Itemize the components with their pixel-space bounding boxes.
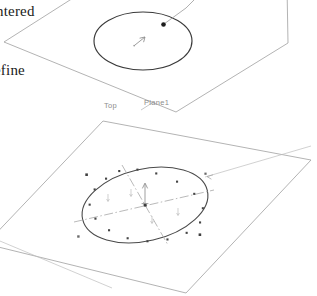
axis-endpoint-handle[interactable]	[85, 173, 88, 176]
control-point-handle[interactable]	[155, 172, 157, 174]
cad-drawing-canvas	[0, 0, 317, 296]
control-point-handle[interactable]	[108, 229, 110, 231]
plane-edge-midpoint-handle[interactable]	[77, 235, 79, 237]
control-point-handle[interactable]	[89, 204, 91, 206]
control-point-handle[interactable]	[199, 221, 201, 223]
control-point-handle[interactable]	[176, 181, 178, 183]
axis-endpoint-handle[interactable]	[199, 233, 202, 236]
plane-label-plane1[interactable]: Plane1	[144, 98, 169, 107]
leader-arrow-icon	[161, 22, 166, 27]
control-point-handle[interactable]	[202, 207, 204, 209]
control-point-handle[interactable]	[105, 178, 107, 180]
control-point-handle[interactable]	[136, 169, 138, 171]
annotation-define-text: efine	[0, 62, 25, 79]
control-point-handle[interactable]	[94, 188, 96, 190]
plane-label-top[interactable]: Top	[104, 101, 117, 110]
ellipse-center-point[interactable]	[144, 204, 147, 207]
control-point-handle[interactable]	[94, 218, 96, 220]
control-point-handle[interactable]	[118, 170, 120, 172]
annotation-centered-text: ntered	[0, 3, 35, 20]
control-point-handle[interactable]	[193, 193, 195, 195]
lower-plane-face[interactable]	[0, 121, 311, 293]
dimension-endpoint-upper[interactable]	[204, 173, 206, 175]
cad-viewport[interactable]: ntered efine Top Plane1	[0, 0, 317, 296]
upper-plane-edges[interactable]	[4, 0, 288, 112]
control-point-handle[interactable]	[127, 237, 129, 239]
control-point-handle[interactable]	[186, 232, 188, 234]
control-point-handle[interactable]	[146, 240, 148, 242]
upper-plane-group[interactable]	[4, 0, 288, 112]
control-point-handle[interactable]	[166, 238, 168, 240]
lower-plane-group[interactable]	[0, 121, 311, 293]
